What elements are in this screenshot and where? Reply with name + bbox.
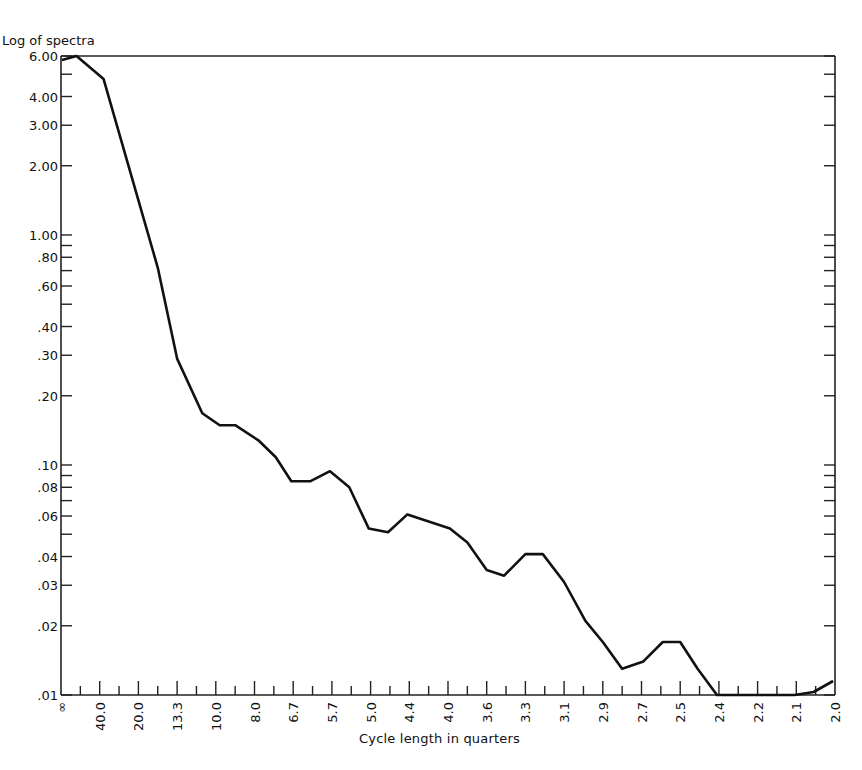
x-tick-label: 3.6 xyxy=(480,702,495,723)
x-tick-label: 2.2 xyxy=(751,702,766,723)
y-tick-label: .20 xyxy=(37,389,58,404)
x-tick-label: 20.0 xyxy=(131,702,146,731)
x-tick-label: 13.3 xyxy=(170,702,185,731)
spectrum-chart: 6.004.003.002.001.00.80.60.40.30.20.10.0… xyxy=(0,0,862,770)
x-tick-label: 10.0 xyxy=(209,702,224,731)
y-tick-label: .80 xyxy=(37,250,58,265)
plot-frame xyxy=(61,56,835,695)
y-tick-label: .30 xyxy=(37,348,58,363)
y-tick-label: 4.00 xyxy=(29,90,58,105)
y-tick-label: .06 xyxy=(37,509,58,524)
y-tick-label: 3.00 xyxy=(29,118,58,133)
x-tick-label: 3.3 xyxy=(518,702,533,723)
x-tick-label: 2.0 xyxy=(828,702,843,723)
x-tick-label: 5.0 xyxy=(364,702,379,723)
y-tick-label: 2.00 xyxy=(29,159,58,174)
x-tick-label: 2.4 xyxy=(712,702,727,723)
x-tick-label: 4.4 xyxy=(402,702,417,723)
y-tick-label: .60 xyxy=(37,279,58,294)
x-tick-label: 40.0 xyxy=(93,702,108,731)
spectrum-line xyxy=(62,56,833,695)
data-series xyxy=(62,56,833,695)
x-tick-label: 4.0 xyxy=(441,702,456,723)
x-tick-label: 8.0 xyxy=(248,702,263,723)
y-tick-label: .03 xyxy=(37,578,58,593)
y-tick-label: .10 xyxy=(37,458,58,473)
x-tick-label: 2.5 xyxy=(673,702,688,723)
x-tick-label: 6.7 xyxy=(286,702,301,723)
y-tick-label: 6.00 xyxy=(29,49,58,64)
x-tick-label: 3.1 xyxy=(557,702,572,723)
x-tick-label: 2.9 xyxy=(596,702,611,723)
x-axis-ticks: ∞40.020.013.310.08.06.75.75.04.44.03.63.… xyxy=(54,681,843,731)
x-tick-label: 5.7 xyxy=(325,702,340,723)
y-tick-label: .01 xyxy=(37,688,58,703)
y-axis-ticks: 6.004.003.002.001.00.80.60.40.30.20.10.0… xyxy=(29,49,835,703)
y-tick-label: 1.00 xyxy=(29,228,58,243)
y-tick-label: .04 xyxy=(37,550,58,565)
x-tick-label: 2.7 xyxy=(635,702,650,723)
x-tick-label: ∞ xyxy=(54,702,69,713)
y-tick-label: .08 xyxy=(37,480,58,495)
y-tick-label: .02 xyxy=(37,619,58,634)
x-tick-label: 2.1 xyxy=(789,702,804,723)
y-tick-label: .40 xyxy=(37,320,58,335)
